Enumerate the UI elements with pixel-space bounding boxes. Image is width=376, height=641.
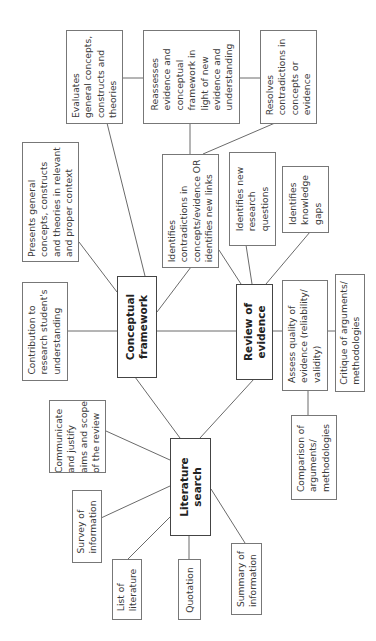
node-presents: Presents general concepts, constructs an… xyxy=(22,142,79,262)
node-evaluates-label: Evaluates general concepts, constructs a… xyxy=(70,36,120,118)
hub-review-of-evidence: Review of evidence xyxy=(236,284,273,380)
node-list-literature: List of literature xyxy=(112,559,142,620)
node-summary-label: Summary of information xyxy=(234,551,259,607)
node-reassesses-label: Reassesses evidence and conceptual frame… xyxy=(148,44,235,111)
literature-review-concept-map: Evaluates general concepts, constructs a… xyxy=(0,0,376,641)
hub-literature-search-label: Literature search xyxy=(178,457,204,517)
node-assess-quality-label: Assess quality of evidence (reliability/… xyxy=(286,289,323,383)
node-resolves: Resolves contradictions in concepts or e… xyxy=(260,30,317,124)
hub-conceptual-framework: Conceptual framework xyxy=(117,276,157,378)
node-quotation: Quotation xyxy=(178,559,201,620)
hub-literature-search: Literature search xyxy=(170,438,211,536)
hub-review-of-evidence-label: Review of evidence xyxy=(242,303,268,361)
node-identifies-questions-label: Identifies new research questions xyxy=(234,167,271,231)
node-evaluates: Evaluates general concepts, constructs a… xyxy=(66,30,123,124)
node-summary: Summary of information xyxy=(231,543,262,615)
node-communicate-label: Communicate and justify aims and scope o… xyxy=(53,401,103,473)
node-critique: Critique of arguments/ methodologies xyxy=(335,274,365,392)
node-identifies-gaps: Identifies knowledge gaps xyxy=(282,166,329,233)
node-identifies-contradictions: Identifies contradictions in concepts/ev… xyxy=(162,154,219,268)
node-identifies-gaps-label: Identifies knowledge gaps xyxy=(287,175,324,225)
node-quotation-label: Quotation xyxy=(183,567,195,613)
node-contribution-label: Contribution to research student's under… xyxy=(26,289,63,374)
node-resolves-label: Resolves contradictions in concepts or e… xyxy=(264,39,314,116)
node-presents-label: Presents general concepts, constructs an… xyxy=(26,147,76,257)
node-communicate: Communicate and justify aims and scope o… xyxy=(49,400,106,473)
node-comparison-label: Comparison of arguments/ methodologies xyxy=(295,423,332,491)
node-contribution: Contribution to research student's under… xyxy=(22,282,68,381)
node-assess-quality: Assess quality of evidence (reliability/… xyxy=(282,280,328,391)
node-reassesses: Reassesses evidence and conceptual frame… xyxy=(143,30,240,124)
hub-conceptual-framework-label: Conceptual framework xyxy=(124,294,150,360)
node-identifies-questions: Identifies new research questions xyxy=(229,152,276,246)
node-survey-label: Survey of information xyxy=(75,500,100,553)
node-survey: Survey of information xyxy=(72,490,102,563)
node-comparison: Comparison of arguments/ methodologies xyxy=(291,415,337,500)
node-critique-label: Critique of arguments/ methodologies xyxy=(338,281,363,385)
node-list-literature-label: List of literature xyxy=(115,568,140,610)
node-identifies-contradictions-label: Identifies contradictions in concepts/ev… xyxy=(166,160,216,263)
